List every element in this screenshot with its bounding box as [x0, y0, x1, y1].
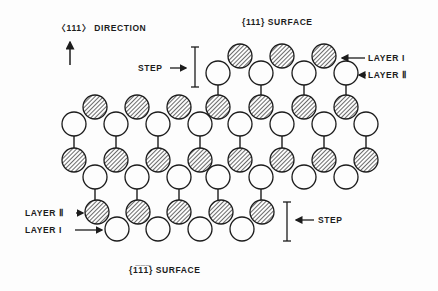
open-atom — [334, 165, 358, 189]
hatched-atom — [104, 148, 128, 172]
open-atom — [206, 61, 230, 85]
hatched-atom — [228, 44, 252, 68]
open-atom — [188, 217, 212, 241]
open-atom — [62, 112, 86, 136]
hatched-atom — [167, 200, 191, 224]
open-atom — [104, 112, 128, 136]
open-atom — [249, 165, 273, 189]
lattice-svg: 〈111〉 DIRECTION {111} SURFACE STEP LAYER… — [0, 0, 438, 291]
top-surface-label: {111} SURFACE — [242, 17, 313, 27]
open-atom — [270, 112, 294, 136]
open-atom — [228, 112, 252, 136]
hatched-atom — [354, 148, 378, 172]
layer-I-top-label: LAYER I — [368, 53, 405, 63]
open-atom — [292, 61, 316, 85]
open-atom — [125, 165, 149, 189]
open-atom — [292, 165, 316, 189]
open-atom — [249, 61, 273, 85]
step-bottom-bracket — [283, 202, 291, 241]
open-atom — [146, 112, 170, 136]
open-atom — [105, 217, 129, 241]
open-atom — [146, 217, 170, 241]
open-atom — [354, 112, 378, 136]
hatched-atom — [146, 148, 170, 172]
hatched-atom — [85, 200, 109, 224]
layer-II-bottom-label: LAYER Ⅱ — [25, 208, 64, 218]
hatched-atom — [83, 95, 107, 119]
open-atom — [334, 61, 358, 85]
hatched-atom — [125, 95, 149, 119]
layer-II-top-label: LAYER Ⅱ — [368, 70, 407, 80]
step-top-label: STEP — [138, 63, 163, 73]
hatched-atom — [270, 148, 294, 172]
step-top-bracket — [191, 47, 199, 87]
atoms — [62, 44, 378, 241]
open-atom — [230, 217, 254, 241]
hatched-atom — [62, 148, 86, 172]
hatched-atom — [126, 200, 150, 224]
hatched-atom — [249, 95, 273, 119]
open-atom — [167, 165, 191, 189]
open-atom — [83, 165, 107, 189]
hatched-atom — [167, 95, 191, 119]
direction-label: 〈111〉 DIRECTION — [57, 23, 146, 33]
hatched-atom — [334, 95, 358, 119]
layer-I-bottom-label: LAYER I — [25, 225, 62, 235]
bottom-surface-label: {1̅1̅1̅} SURFACE — [129, 265, 201, 275]
open-atom — [188, 112, 212, 136]
hatched-atom — [312, 44, 336, 68]
open-atom — [206, 165, 230, 189]
hatched-atom — [188, 148, 212, 172]
hatched-atom — [209, 200, 233, 224]
hatched-atom — [206, 95, 230, 119]
hatched-atom — [250, 200, 274, 224]
crystal-diagram: 〈111〉 DIRECTION {111} SURFACE STEP LAYER… — [0, 0, 438, 291]
hatched-atom — [292, 95, 316, 119]
open-atom — [312, 112, 336, 136]
hatched-atom — [228, 148, 252, 172]
step-bottom-label: STEP — [318, 215, 343, 225]
hatched-atom — [312, 148, 336, 172]
hatched-atom — [270, 44, 294, 68]
